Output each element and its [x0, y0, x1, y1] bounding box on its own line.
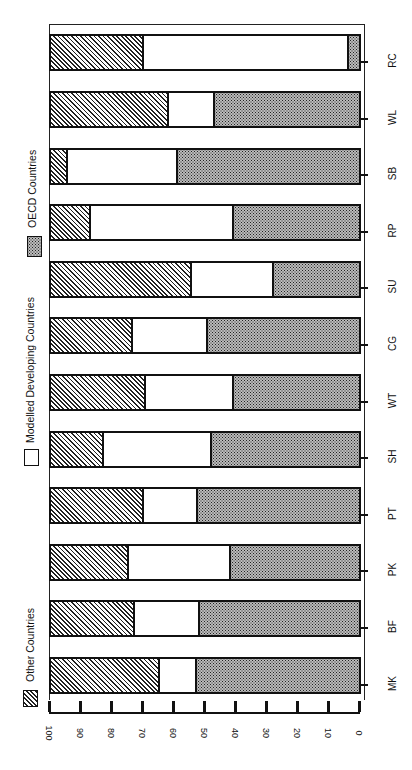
category-tick [360, 570, 368, 572]
bar-segment-modelled-mk [158, 657, 197, 694]
bar-segment-other-cg [49, 317, 133, 354]
category-label: MK [387, 668, 398, 698]
bar-segment-oecd-su [272, 261, 361, 298]
bar-segment-modelled-wl [167, 91, 216, 128]
category-label: PT [387, 498, 398, 528]
category-label: SB [387, 159, 398, 189]
category-tick [360, 231, 368, 233]
bar-segment-modelled-wt [144, 374, 234, 411]
bar-segment-other-sh [49, 431, 104, 468]
bar-segment-other-pk [49, 544, 129, 581]
bar-segment-modelled-bf [133, 600, 200, 637]
bar-segment-other-sb [49, 148, 68, 185]
bar-segment-modelled-pt [142, 487, 198, 524]
bar-segment-other-rp [49, 204, 91, 241]
bar-segment-oecd-wl [213, 91, 361, 128]
category-tick [360, 118, 368, 120]
category-label: BF [387, 611, 398, 641]
value-tick-label: 40 [230, 722, 240, 744]
value-tick [296, 701, 299, 712]
category-tick [360, 457, 368, 459]
bar-segment-oecd-pk [229, 544, 361, 581]
bar-segment-other-mk [49, 657, 160, 694]
category-tick [360, 514, 368, 516]
category-label: RP [387, 215, 398, 245]
bar-segment-modelled-sb [66, 148, 178, 185]
value-tick [141, 701, 144, 712]
category-tick [360, 401, 368, 403]
bar-segment-oecd-sb [176, 148, 361, 185]
category-tick [360, 61, 368, 63]
bar-segment-oecd-bf [198, 600, 361, 637]
category-tick [360, 627, 368, 629]
value-tick-label: 20 [292, 722, 302, 744]
bar-segment-other-wl [49, 91, 169, 128]
value-axis-line [49, 712, 360, 714]
legend-swatch-other [23, 690, 38, 707]
category-tick [360, 344, 368, 346]
legend-label-oecd: OECD Countries [26, 150, 38, 228]
bar-segment-oecd-rc [347, 34, 361, 71]
value-tick [79, 701, 82, 712]
value-tick-label: 50 [199, 722, 209, 744]
legend-swatch-modelled [24, 449, 39, 466]
bar-segment-other-su [49, 261, 192, 298]
category-label: PK [387, 555, 398, 585]
value-tick [358, 701, 361, 712]
bar-segment-modelled-rp [89, 204, 234, 241]
bar-segment-modelled-sh [102, 431, 213, 468]
value-tick [203, 701, 206, 712]
bar-segment-oecd-sh [210, 431, 361, 468]
bar-segment-modelled-rc [142, 34, 349, 71]
stacked-bar-chart: MKBFPKPTSHWTCGSURPSBWLRC 100908070605040… [0, 0, 412, 770]
value-tick [234, 701, 237, 712]
bar-segment-other-bf [49, 600, 135, 637]
value-tick-label: 60 [168, 722, 178, 744]
bar-segment-other-wt [49, 374, 146, 411]
value-tick [110, 701, 113, 712]
value-tick-label: 30 [261, 722, 271, 744]
category-label: RC [387, 45, 398, 75]
bar-segment-other-rc [49, 34, 144, 71]
value-tick-label: 100 [44, 722, 54, 744]
category-label: SU [387, 272, 398, 302]
bar-segment-oecd-cg [206, 317, 361, 354]
value-tick-label: 80 [106, 722, 116, 744]
bar-segment-modelled-pk [127, 544, 231, 581]
category-tick [360, 174, 368, 176]
legend-label-modelled: Modelled Developing Countries [24, 297, 36, 443]
category-label: WT [387, 385, 398, 415]
value-tick-label: 90 [75, 722, 85, 744]
bar-segment-oecd-mk [195, 657, 361, 694]
bar-segment-modelled-cg [131, 317, 207, 354]
value-tick [327, 701, 330, 712]
category-tick [360, 287, 368, 289]
bar-segment-oecd-wt [232, 374, 361, 411]
category-label: CG [387, 328, 398, 358]
category-label: WL [387, 102, 398, 132]
value-tick-label: 10 [323, 722, 333, 744]
value-tick [265, 701, 268, 712]
value-tick [172, 701, 175, 712]
category-tick [360, 684, 368, 686]
value-tick-label: 0 [354, 722, 364, 744]
value-tick-label: 70 [137, 722, 147, 744]
value-tick [48, 701, 51, 712]
legend-label-other: Other Countries [24, 608, 36, 682]
category-label: SH [387, 442, 398, 472]
bar-segment-other-pt [49, 487, 144, 524]
bar-segment-modelled-su [190, 261, 274, 298]
legend-swatch-oecd [27, 236, 42, 257]
bar-segment-oecd-rp [232, 204, 361, 241]
bar-segment-oecd-pt [196, 487, 361, 524]
